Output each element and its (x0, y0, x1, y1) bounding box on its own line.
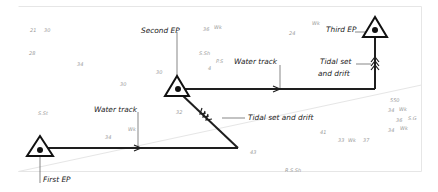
label-tidal-2-line2: and drift (318, 69, 351, 78)
soundings: 21 30 28 34 30 30 36 Wk S.Sh P.S 4 24 Wk… (29, 20, 417, 173)
sounding: 34 (77, 61, 83, 67)
tidal-arrow-1 (200, 108, 212, 120)
second-ep-symbol (165, 76, 189, 96)
sounding: P.S (216, 58, 224, 64)
sounding: Wk (312, 20, 321, 26)
label-tidal-2-line1: Tidal set (320, 57, 353, 66)
label-first-ep: First EP (43, 175, 71, 184)
ep-dot-icon (372, 27, 378, 33)
sounding: 28 (29, 50, 35, 56)
label-water-track-2: Water track (234, 57, 278, 66)
sounding: Wk (399, 106, 408, 112)
sounding: 24 (289, 30, 295, 36)
sounding: 33 (338, 137, 344, 143)
sounding: 30 (44, 27, 50, 33)
label-third-ep: Third EP (326, 25, 357, 34)
sounding: 21 (30, 27, 36, 33)
sounding: 36 (203, 26, 209, 32)
sounding: 37 (363, 137, 370, 143)
labels: Second EP Third EP First EP Water track … (43, 25, 357, 184)
sounding: Wk (214, 24, 223, 30)
third-ep-symbol (363, 17, 387, 37)
label-tidal-1: Tidal set and drift (248, 113, 314, 122)
sounding: R.S.Sh (285, 167, 301, 173)
label-second-ep: Second EP (141, 26, 180, 35)
sounding: 32 (176, 109, 182, 115)
nautical-plot: 21 30 28 34 30 30 36 Wk S.Sh P.S 4 24 Wk… (0, 0, 438, 192)
sounding: 30 (156, 69, 162, 75)
tidal-track-line-1 (181, 94, 238, 148)
sounding: S.G (408, 115, 417, 121)
first-ep-symbol (27, 136, 53, 156)
sounding: 30 (120, 81, 126, 87)
sounding: Wk (400, 125, 409, 131)
sounding: S.Sh (199, 50, 210, 56)
sounding: 41 (320, 129, 326, 135)
sounding: 34 (388, 107, 394, 113)
ep-triangle-icon (165, 76, 189, 96)
sounding: 43 (250, 149, 256, 155)
sounding: Wk (348, 137, 357, 143)
sounding: 36 (396, 117, 402, 123)
sounding: 34 (105, 134, 111, 140)
label-water-track-1: Water track (94, 105, 138, 114)
ep-dot-icon (37, 147, 43, 153)
sounding: Wk (128, 126, 137, 132)
sounding: 550 (390, 97, 400, 103)
sounding: S.St (38, 110, 49, 116)
ep-dot-icon (175, 86, 181, 92)
sounding: 4 (208, 65, 211, 71)
sounding: 34 (388, 127, 394, 133)
